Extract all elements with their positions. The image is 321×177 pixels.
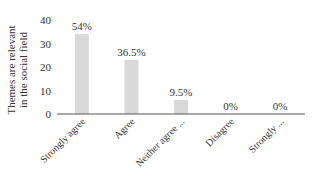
y-axis-label: Themes are relevantin the social field (5, 25, 29, 114)
data-label: 54% (72, 20, 92, 32)
y-tick-label: 20 (40, 61, 52, 73)
x-tick-label: Strongly agree (38, 115, 88, 165)
data-label: 0% (273, 100, 288, 112)
y-tick-label: 10 (40, 85, 52, 97)
y-axis-ticks: 010203040 (40, 14, 52, 120)
x-tick-label: Agree (112, 115, 137, 140)
y-tick-label: 0 (46, 108, 52, 120)
data-label: 36.5% (117, 46, 145, 58)
data-label: 9.5% (170, 86, 193, 98)
y-tick-label: 30 (40, 38, 52, 50)
x-tick-label: Neither agree ... (133, 116, 186, 169)
bar (174, 100, 188, 114)
bar (75, 34, 89, 114)
bar (124, 60, 138, 114)
bar-chart: Themes are relevantin the social field 0… (0, 0, 321, 177)
y-axis-label-line: in the social field (17, 31, 29, 108)
bars: 54%36.5%9.5%0%0% (72, 20, 288, 114)
y-tick-label: 40 (40, 14, 52, 26)
x-tick-label: Strongly ... (246, 116, 285, 155)
y-axis-label-line: Themes are relevant (5, 25, 17, 114)
x-tick-label: Disagree (203, 115, 236, 148)
data-label: 0% (223, 100, 238, 112)
x-axis-labels: Strongly agreeAgreeNeither agree ...Disa… (38, 115, 286, 169)
